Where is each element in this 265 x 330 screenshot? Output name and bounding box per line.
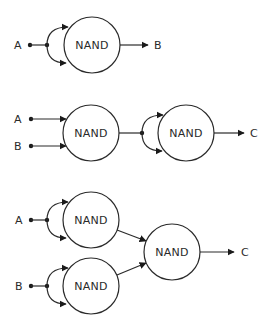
wire-a-to-final — [117, 230, 146, 241]
gate-label: NAND — [75, 39, 109, 52]
input-label-b: B — [14, 140, 22, 153]
wire-b-to-final — [117, 263, 146, 275]
gate-label: NAND — [74, 280, 108, 293]
input-label-b: B — [15, 280, 23, 293]
output-label-b: B — [154, 39, 162, 52]
gate-label: NAND — [74, 127, 108, 140]
gate-label: NAND — [74, 214, 108, 227]
input-label-a: A — [14, 113, 22, 126]
nand-diagrams-canvas: A NAND B A B NAND NAND C A — [0, 0, 265, 330]
output-label-c: C — [250, 127, 258, 140]
diagram-not-gate: A NAND B — [14, 17, 162, 73]
wire-to-gate-bottom — [47, 45, 66, 63]
input-label-a: A — [14, 39, 22, 52]
diagram-or-gate: A NAND B NAND NAND C — [15, 192, 249, 314]
input-label-a: A — [15, 214, 23, 227]
gate-label: NAND — [155, 246, 189, 259]
output-label-c: C — [241, 246, 249, 259]
diagram-and-gate: A B NAND NAND C — [14, 105, 258, 161]
gate-label: NAND — [169, 127, 203, 140]
